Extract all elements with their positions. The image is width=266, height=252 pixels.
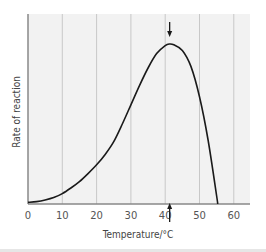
x-tick-label-60: 60 bbox=[227, 210, 240, 221]
x-tick-label-30: 30 bbox=[125, 210, 138, 221]
x-tick-label-20: 20 bbox=[90, 210, 103, 221]
x-axis-label: Temperature/°C bbox=[102, 229, 174, 240]
x-tick-label-10: 10 bbox=[56, 210, 69, 221]
plot-area bbox=[28, 14, 250, 204]
x-tick-label-0: 0 bbox=[25, 210, 31, 221]
rate-vs-temperature-chart: 0102030405060 Temperature/°C Rate of rea… bbox=[0, 0, 266, 252]
x-tick-labels: 0102030405060 bbox=[25, 210, 240, 221]
y-axis-label: Rate of reaction bbox=[11, 76, 22, 148]
x-tick-label-50: 50 bbox=[193, 210, 206, 221]
